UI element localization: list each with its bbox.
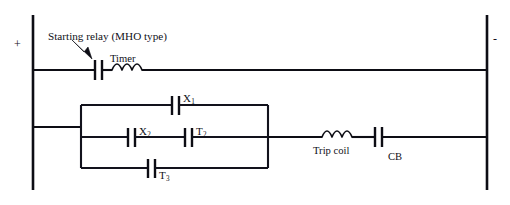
contact-x2-subscript: 2 (147, 131, 151, 139)
ladder-diagram: + - Starting relay (MHO type) Timer Trip… (0, 0, 510, 205)
contact-x1-label: X1 (183, 93, 195, 104)
contact-x1-subscript: 1 (191, 98, 195, 106)
starting-relay-caption: Starting relay (MHO type) (48, 31, 167, 42)
starting-relay-pointer-arrow (72, 40, 92, 59)
negative-rail-label: - (493, 33, 497, 45)
contact-t2-letter: T (196, 125, 203, 137)
timer-coil-symbol (112, 64, 142, 70)
cb-contact-label: CB (388, 152, 402, 163)
contact-x2-letter: X (139, 125, 147, 137)
contact-t3-subscript: 3 (166, 175, 170, 183)
contact-t2-subscript: 2 (203, 131, 207, 139)
positive-rail-label: + (14, 38, 21, 50)
trip-coil-symbol (322, 131, 352, 137)
contact-x2-label: X2 (139, 126, 151, 137)
contact-t2-label: T2 (196, 126, 206, 137)
trip-coil-label: Trip coil (313, 146, 349, 157)
timer-coil-label: Timer (110, 54, 136, 65)
contact-t3-letter: T (159, 169, 166, 181)
contact-t3-label: T3 (159, 170, 169, 181)
contact-x1-letter: X (183, 92, 191, 104)
